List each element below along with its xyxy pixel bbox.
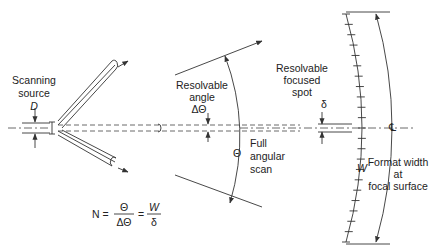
equation-frac2-den: δ: [151, 216, 157, 228]
resolvable-angle-line2: angle: [189, 91, 215, 103]
scan-limit-rays: [175, 41, 262, 207]
resolution-equation: N = Θ ΔΘ = W δ: [92, 201, 161, 228]
source-label-line1: Scanning: [12, 74, 56, 86]
spot-line3: spot: [292, 86, 312, 98]
format-width-symbol: W: [357, 162, 368, 174]
spot-symbol-delta: δ: [321, 98, 327, 110]
source-label-line2: source: [18, 87, 50, 99]
resolvable-angle-line1: Resolvable: [176, 79, 228, 91]
equation-frac2-num: W: [149, 201, 160, 213]
format-line1: Format width: [368, 156, 429, 168]
equation-frac1-num: Θ: [120, 201, 128, 213]
full-scan-line1: Full: [250, 137, 267, 149]
centerline-symbol: ℄: [388, 121, 396, 133]
lower-beam: [58, 130, 128, 172]
theta-symbol: Θ: [233, 147, 241, 159]
spot-line2: focused: [284, 74, 321, 86]
format-line2: at: [394, 168, 403, 180]
full-scan-line2: angular: [250, 150, 286, 162]
format-line3: focal surface: [368, 180, 428, 192]
source-symbol-d: D: [30, 100, 38, 112]
equation-eq2: =: [138, 208, 144, 220]
upper-beam: [58, 60, 128, 128]
spot-line1: Resolvable: [276, 62, 328, 74]
full-scan-line3: scan: [250, 163, 272, 175]
resolvable-angle-symbol: ΔΘ: [192, 103, 207, 115]
scanning-resolution-diagram: Scanning source D Resolvable angle ΔΘ Θ …: [0, 0, 440, 252]
equation-lhs: N =: [92, 208, 109, 220]
equation-frac1-den: ΔΘ: [117, 216, 132, 228]
